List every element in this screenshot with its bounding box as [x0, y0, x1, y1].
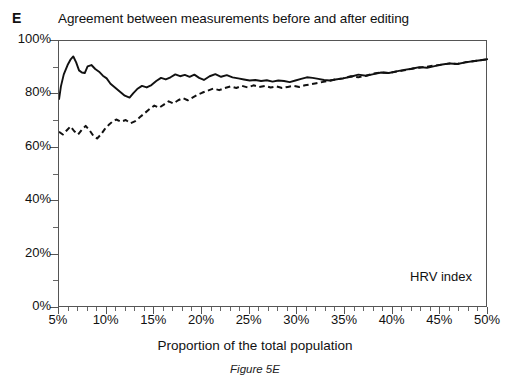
- x-tick-label: 50%: [464, 312, 510, 327]
- y-tick-label: 40%: [3, 191, 51, 206]
- y-tick-label: 80%: [3, 84, 51, 99]
- x-tick-minor: [277, 307, 278, 311]
- y-tick-major: [50, 147, 58, 148]
- x-axis-title: Proportion of the total population: [0, 338, 510, 353]
- x-tick-label: 10%: [83, 312, 129, 327]
- y-tick-minor: [53, 227, 58, 228]
- x-tick-minor: [287, 307, 288, 311]
- y-tick-major: [50, 200, 58, 201]
- x-tick-minor: [211, 307, 212, 311]
- x-tick-minor: [144, 307, 145, 311]
- x-tick-label: 25%: [226, 312, 272, 327]
- figure-5e: E Agreement between measurements before …: [0, 0, 510, 384]
- x-tick-minor: [191, 307, 192, 311]
- x-tick-minor: [382, 307, 383, 311]
- x-tick-minor: [239, 307, 240, 311]
- x-tick-minor: [258, 307, 259, 311]
- x-tick-minor: [363, 307, 364, 311]
- y-tick-minor: [53, 174, 58, 175]
- x-tick-minor: [468, 307, 469, 311]
- x-tick-minor: [325, 307, 326, 311]
- y-tick-major: [50, 40, 58, 41]
- figure-caption: Figure 5E: [0, 363, 510, 375]
- y-tick-minor: [53, 67, 58, 68]
- x-tick-label: 15%: [130, 312, 176, 327]
- x-tick-label: 30%: [273, 312, 319, 327]
- x-tick-label: 45%: [416, 312, 462, 327]
- y-tick-major: [50, 93, 58, 94]
- plot-area: HRV index: [58, 40, 487, 307]
- y-tick-minor: [53, 120, 58, 121]
- x-tick-minor: [125, 307, 126, 311]
- x-tick-minor: [182, 307, 183, 311]
- x-tick-minor: [315, 307, 316, 311]
- x-tick-minor: [458, 307, 459, 311]
- series-line-dashed: [59, 59, 488, 138]
- x-tick-minor: [96, 307, 97, 311]
- x-tick-minor: [134, 307, 135, 311]
- x-tick-minor: [77, 307, 78, 311]
- y-tick-major: [50, 307, 58, 308]
- x-tick-minor: [220, 307, 221, 311]
- x-tick-minor: [172, 307, 173, 311]
- x-tick-minor: [268, 307, 269, 311]
- x-tick-minor: [373, 307, 374, 311]
- x-tick-minor: [401, 307, 402, 311]
- chart-title: Agreement between measurements before an…: [58, 11, 409, 26]
- y-tick-major: [50, 254, 58, 255]
- series-annotation: HRV index: [410, 269, 472, 284]
- x-tick-minor: [163, 307, 164, 311]
- x-tick-label: 35%: [321, 312, 367, 327]
- x-tick-minor: [411, 307, 412, 311]
- x-tick-minor: [334, 307, 335, 311]
- y-tick-label: 20%: [3, 245, 51, 260]
- x-tick-minor: [306, 307, 307, 311]
- x-tick-minor: [87, 307, 88, 311]
- x-tick-minor: [68, 307, 69, 311]
- x-tick-minor: [430, 307, 431, 311]
- x-tick-label: 40%: [369, 312, 415, 327]
- x-tick-minor: [230, 307, 231, 311]
- x-tick-minor: [477, 307, 478, 311]
- y-tick-label: 0%: [3, 298, 51, 313]
- y-tick-label: 100%: [3, 31, 51, 46]
- series-line-solid: [59, 56, 488, 99]
- panel-label: E: [12, 10, 22, 26]
- y-tick-label: 60%: [3, 138, 51, 153]
- x-tick-minor: [420, 307, 421, 311]
- x-tick-minor: [449, 307, 450, 311]
- x-tick-label: 5%: [35, 312, 81, 327]
- data-lines: [59, 41, 488, 308]
- y-tick-minor: [53, 280, 58, 281]
- x-tick-minor: [115, 307, 116, 311]
- x-tick-label: 20%: [178, 312, 224, 327]
- x-tick-minor: [354, 307, 355, 311]
